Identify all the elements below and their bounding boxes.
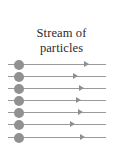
- arrow-head-icon: [80, 134, 85, 140]
- particle-dot: [14, 72, 24, 82]
- particle-ray-row: [0, 118, 123, 131]
- particle-ray-row: [0, 131, 123, 144]
- particle-dot: [14, 84, 24, 94]
- particle-dot: [14, 60, 24, 70]
- arrow-head-icon: [76, 97, 81, 103]
- arrow-head-icon: [70, 121, 75, 127]
- arrow-head-icon: [73, 73, 78, 79]
- arrow-head-icon: [79, 85, 84, 91]
- particle-stream-diagram: [0, 0, 123, 167]
- particle-dot: [14, 96, 24, 106]
- particle-dot: [14, 120, 24, 130]
- arrow-head-icon: [84, 61, 89, 67]
- particle-dot: [14, 108, 24, 118]
- arrow-head-icon: [78, 109, 83, 115]
- particle-dot: [14, 133, 24, 143]
- stream-of-particles-figure: Stream of particles: [0, 0, 123, 167]
